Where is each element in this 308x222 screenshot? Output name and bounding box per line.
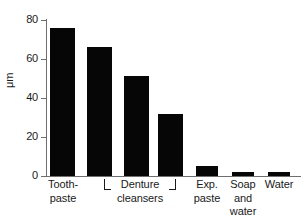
category-label-water: Water: [254, 178, 304, 192]
bar-denture-cleanser-1: [87, 47, 112, 176]
y-tick-label-20: 20: [26, 130, 38, 143]
category-label-denture-cleansers: Denture cleansers: [106, 178, 174, 205]
y-tick-label-60: 60: [26, 52, 38, 65]
bar-denture-cleanser-3: [158, 114, 183, 176]
y-axis-title: μm: [3, 72, 15, 88]
y-tick-20: 20: [41, 137, 46, 138]
bar-soap-and-water: [232, 172, 254, 176]
bar-water: [268, 172, 290, 176]
x-axis-line: [46, 176, 301, 177]
category-label-toothpaste: Tooth- paste: [36, 178, 90, 205]
category-axis-labels: Tooth- paste Denture cleansers Exp. past…: [0, 178, 308, 222]
y-tick-label-80: 80: [26, 13, 38, 26]
y-tick-0: 0: [41, 176, 46, 177]
bar-denture-cleanser-2: [124, 76, 149, 176]
y-tick-label-40: 40: [26, 91, 38, 104]
y-tick-40: 40: [41, 98, 46, 99]
y-tick-60: 60: [41, 59, 46, 60]
plot-area: [47, 20, 300, 176]
bar-exp-paste: [196, 166, 218, 176]
bar-tooth-paste: [50, 28, 75, 176]
y-tick-80: 80: [41, 20, 46, 21]
bar-chart-figure: 80 60 40 20 0 μm Tooth- paste Denture cl…: [0, 0, 308, 222]
